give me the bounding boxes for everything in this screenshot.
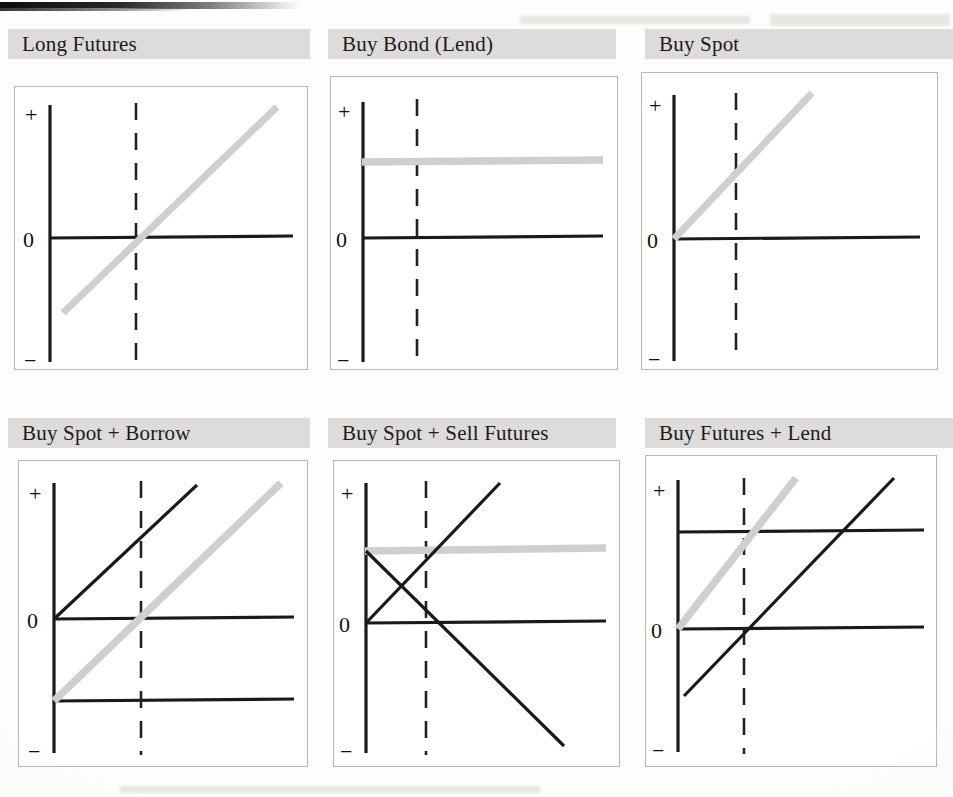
series-sell-futures-leg: [366, 551, 564, 746]
panel-title: Buy Spot: [645, 32, 739, 57]
plot-area: + 0 −: [642, 73, 937, 369]
series-locked-in-payoff: [365, 548, 606, 551]
series-spot-payoff: [54, 483, 281, 701]
plot-frame: + 0 −: [18, 460, 308, 767]
scan-edge-artifact-secondary: [0, 8, 190, 11]
axis-label-positive: +: [29, 481, 41, 506]
series-net-payoff: [54, 485, 197, 619]
zero-axis: [674, 237, 920, 239]
zero-axis: [366, 621, 606, 623]
series-combined-payoff: [678, 478, 796, 629]
plot-frame: + 0 −: [641, 72, 938, 370]
panel-title: Buy Futures + Lend: [645, 421, 831, 446]
axis-label-zero: 0: [23, 227, 34, 252]
series-lend-proceeds: [678, 530, 924, 532]
axis-label-negative: −: [24, 348, 36, 373]
axis-label-positive: +: [649, 93, 661, 118]
plot-frame: + 0 −: [645, 455, 937, 767]
panel-title: Buy Spot + Borrow: [8, 421, 191, 446]
series-spot-payoff: [674, 93, 812, 239]
panel-title: Buy Spot + Sell Futures: [328, 421, 549, 446]
axis-label-zero: 0: [647, 228, 658, 253]
axis-label-negative: −: [337, 348, 349, 373]
axis-label-negative: −: [648, 347, 660, 372]
zero-axis: [50, 236, 293, 238]
axis-label-positive: +: [653, 478, 665, 503]
zero-axis: [678, 627, 924, 629]
axis-label-zero: 0: [27, 608, 38, 633]
scan-smudge: [770, 14, 950, 26]
scan-smudge: [120, 786, 540, 793]
zero-axis: [363, 236, 603, 238]
panel-title-band: Buy Spot + Sell Futures: [328, 418, 616, 448]
panel-title-band: Buy Bond (Lend): [328, 29, 616, 59]
panel-title-band: Long Futures: [8, 29, 310, 59]
scan-smudge: [520, 16, 750, 24]
plot-area: + 0 −: [15, 87, 307, 369]
axis-label-negative: −: [340, 739, 352, 764]
axis-label-zero: 0: [336, 227, 347, 252]
axis-label-negative: −: [652, 738, 664, 763]
plot-frame: + 0 −: [330, 76, 618, 370]
plot-frame: + 0 −: [333, 460, 620, 767]
zero-axis: [54, 617, 294, 619]
plot-frame: + 0 −: [14, 86, 308, 370]
series-futures-payoff: [63, 107, 277, 313]
panel-title-band: Buy Spot + Borrow: [8, 418, 310, 448]
axis-label-negative: −: [28, 739, 40, 764]
panel-title: Long Futures: [8, 32, 137, 57]
axis-label-positive: +: [338, 99, 350, 124]
series-bond-payoff: [362, 160, 603, 162]
plot-area: + 0 −: [19, 461, 307, 766]
panel-title-band: Buy Spot: [645, 29, 953, 59]
axis-label-positive: +: [341, 481, 353, 506]
series-borrow-cost: [54, 699, 294, 701]
panel-title-band: Buy Futures + Lend: [645, 418, 953, 448]
plot-area: + 0 −: [334, 461, 619, 766]
plot-area: + 0 −: [331, 77, 617, 369]
plot-area: + 0 −: [646, 456, 936, 766]
axis-label-zero: 0: [651, 618, 662, 643]
axis-label-zero: 0: [339, 612, 350, 637]
panel-title: Buy Bond (Lend): [328, 32, 493, 57]
axis-label-positive: +: [25, 102, 37, 127]
